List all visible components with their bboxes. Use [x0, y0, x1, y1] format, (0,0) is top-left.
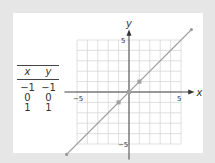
x-axis-arrow-icon [188, 90, 194, 95]
x-tick-label-pos: 5 [177, 95, 181, 103]
y-axis-arrow-icon [127, 30, 132, 36]
y-tick-label-neg: −5 [118, 141, 128, 149]
axes [65, 30, 195, 160]
x-axis-label: x [196, 87, 203, 98]
y-tick-label-pos: 5 [121, 37, 125, 45]
data-point [117, 100, 121, 104]
line-end-marker [65, 153, 68, 156]
x-tick-label-neg: −5 [73, 95, 83, 103]
data-point [127, 90, 131, 94]
coordinate-plane: −5 5 5 −5 x y [0, 0, 215, 163]
y-axis-label: y [125, 18, 133, 29]
data-point [137, 80, 141, 84]
line-end-marker [190, 28, 193, 31]
